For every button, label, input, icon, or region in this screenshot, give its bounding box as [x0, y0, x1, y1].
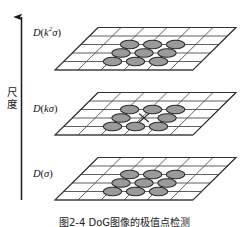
neighbor-ellipse	[143, 170, 161, 178]
neighbor-ellipse	[158, 49, 176, 57]
neighbor-ellipse	[149, 122, 167, 130]
neighbor-ellipse	[112, 179, 130, 187]
plane-top-label-close: )	[57, 27, 61, 38]
scale-axis-label: 尺度	[4, 86, 20, 110]
neighbor-ellipse	[166, 170, 184, 178]
neighbor-ellipse	[126, 187, 144, 195]
neighbor-ellipse	[158, 114, 176, 122]
neighbor-ellipse	[112, 49, 130, 57]
neighbor-ellipse	[103, 187, 121, 195]
neighbor-ellipse	[143, 40, 161, 48]
plane-middle-label: D(kσ)	[33, 101, 57, 114]
neighbor-ellipse	[149, 187, 167, 195]
figure-root: 尺度 D(k2σ) D(kσ) D(σ) 图2-4 DoG图像的极值点检测	[0, 0, 249, 227]
plane-middle	[55, 93, 236, 136]
neighbor-ellipse	[135, 49, 153, 57]
plane-top-label-d: D	[33, 27, 41, 38]
plane-bottom-label-d: D	[33, 168, 41, 179]
plane-bottom	[55, 158, 236, 201]
neighbor-ellipse	[149, 57, 167, 65]
plane-middle-grid	[55, 93, 236, 136]
neighbor-ellipse	[120, 105, 138, 113]
neighbor-ellipse	[166, 105, 184, 113]
neighbor-ellipse	[120, 40, 138, 48]
plane-middle-label-close: )	[54, 103, 58, 114]
plane-top-label: D(k2σ)	[33, 25, 61, 38]
plane-middle-label-d: D	[33, 103, 41, 114]
neighbor-ellipse	[112, 114, 130, 122]
neighbor-ellipse	[120, 170, 138, 178]
neighbor-ellipse	[143, 105, 161, 113]
neighbor-ellipse	[103, 122, 121, 130]
neighbor-ellipse	[158, 179, 176, 187]
figure-caption: 图2-4 DoG图像的极值点检测	[0, 217, 249, 227]
plane-bottom-label-close: )	[49, 168, 53, 179]
plane-bottom-label: D(σ)	[33, 166, 53, 179]
neighbor-ellipse	[135, 179, 153, 187]
plane-top	[55, 28, 236, 71]
neighbor-ellipse	[126, 122, 144, 130]
neighbor-ellipse	[166, 40, 184, 48]
neighbor-ellipse	[103, 57, 121, 65]
neighbor-ellipse	[126, 57, 144, 65]
